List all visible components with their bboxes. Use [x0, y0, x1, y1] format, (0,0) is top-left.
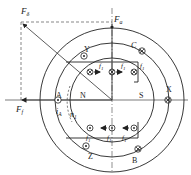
pole-north: N: [80, 91, 86, 100]
svg-text:f1: f1: [140, 62, 144, 71]
speed-label: n1: [70, 110, 77, 120]
coil-z-dot: [83, 143, 89, 149]
rotor-frame-bottom: [66, 122, 138, 138]
svg-text:f1: f1: [121, 62, 125, 71]
stator-label-z: Z: [88, 152, 93, 161]
svg-text:f1: f1: [107, 134, 111, 143]
f-delta-label: Fδ: [20, 6, 30, 17]
rotor-conductors-top: f1 f1 f1: [87, 62, 144, 75]
stator-label-c: C: [131, 41, 137, 50]
coil-a-dot: [55, 97, 61, 103]
svg-text:f1: f1: [99, 62, 103, 71]
current-label: iA: [56, 107, 62, 117]
machine-diagram: Fδ Fa Ff A Y C X B Z N S iA n1 f1 f1 f1 …: [0, 0, 191, 175]
svg-text:f1: f1: [122, 134, 126, 143]
f-a-label: Fa: [113, 14, 123, 25]
coil-c-cross: [139, 48, 145, 54]
stator-label-b: B: [132, 156, 137, 165]
pole-south: S: [139, 91, 143, 100]
rotor-conductors-bottom: f1 f1 f1: [86, 125, 137, 143]
stator-label-x: X: [166, 85, 172, 94]
f-f-label: Ff: [15, 104, 25, 115]
